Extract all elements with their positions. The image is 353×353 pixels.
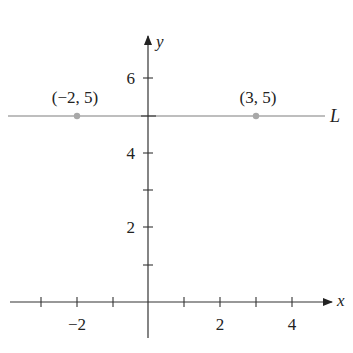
point-label-neg2-5: (−2, 5): [52, 88, 98, 107]
y-axis-label: y: [154, 32, 164, 51]
point-3-5: [253, 113, 259, 119]
point-neg2-5: [74, 113, 80, 119]
x-axis-label: x: [336, 291, 345, 310]
y-tick-label-6: 6: [127, 69, 136, 88]
x-tick-label-2: 2: [216, 315, 225, 334]
coordinate-plot: (−2, 5) (3, 5) L x y −2 2 4 6 4 2: [0, 0, 353, 353]
x-tick-label-neg2: −2: [68, 315, 86, 334]
x-tick-label-4: 4: [288, 315, 297, 334]
plot-canvas: (−2, 5) (3, 5) L x y −2 2 4 6 4 2: [0, 0, 353, 353]
y-tick-label-4: 4: [127, 144, 136, 163]
point-label-3-5: (3, 5): [240, 88, 277, 107]
y-tick-label-2: 2: [127, 218, 136, 237]
line-label-L: L: [329, 106, 340, 126]
